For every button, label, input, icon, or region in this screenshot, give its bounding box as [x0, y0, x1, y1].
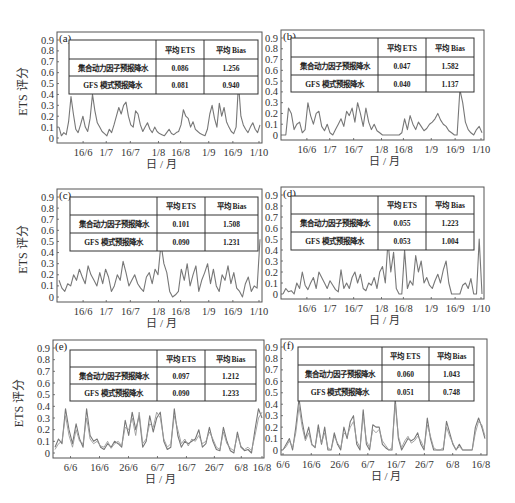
table-row-label: 集合动力因子预报降水 — [78, 371, 150, 381]
y-tick-label: 0.9 — [41, 192, 54, 203]
x-tick-label: 6/8 — [235, 462, 248, 473]
y-tick-label: 0.3 — [265, 97, 278, 108]
y-tick-label: 0.4 — [41, 89, 55, 100]
x-tick-label: 6/6 — [276, 459, 289, 470]
y-tick-label: 0.6 — [265, 65, 278, 76]
table-cell: 1.223 — [442, 219, 459, 228]
x-axis-label: 日 / 月 — [369, 314, 400, 326]
x-tick-label: 1/8 — [152, 306, 165, 317]
x-tick-label: 16/9 — [224, 147, 243, 158]
x-axis-label: 日 / 月 — [145, 473, 176, 485]
x-tick-label: 1/7 — [100, 147, 113, 158]
table-header: 平均 ETS — [166, 354, 196, 364]
y-tick-label: 0.2 — [41, 111, 54, 122]
x-tick-label: 6/7 — [361, 459, 374, 470]
table-cell: 1.582 — [442, 62, 459, 71]
x-tick-label: 1/10 — [250, 147, 269, 158]
table-row-label: GFS 模式预报降水 — [83, 80, 142, 90]
y-tick-label: 0.3 — [265, 410, 278, 421]
x-tick-label: 1/9 — [425, 144, 438, 155]
y-tick-label: 0.1 — [37, 436, 50, 447]
table-row-label: GFS 模式预报降水 — [305, 236, 364, 246]
y-tick-label: 0.8 — [37, 354, 50, 365]
x-tick-label: 6/8 — [446, 459, 459, 470]
table-cell: 0.081 — [172, 81, 189, 90]
y-tick-label: 0.1 — [41, 122, 54, 133]
stats-table: 平均 ETS平均 Bias集合动力因子预报降水0.0601.043GFS 模式预… — [298, 347, 474, 401]
table-header: 平均 Bias — [217, 201, 247, 211]
y-tick-label: 0.9 — [265, 33, 278, 44]
panel-label: (f) — [283, 339, 294, 352]
x-tick-label: 1/7 — [323, 303, 336, 314]
x-tick-label: 16/7 — [344, 144, 363, 155]
y-tick-label: 0.1 — [265, 278, 278, 289]
x-tick-label: 16/6 — [90, 462, 109, 473]
y-tick-label: 0.4 — [37, 401, 51, 412]
x-tick-label: 16/6 — [74, 306, 93, 317]
series-line — [283, 404, 485, 450]
table-header: 平均 ETS — [387, 200, 417, 210]
x-tick-label: 1/8 — [152, 147, 165, 158]
x-tick-label: 16/7 — [121, 147, 140, 158]
table-cell: 0.051 — [397, 388, 414, 397]
y-tick-label: 0.1 — [265, 119, 278, 130]
table-row-label: 集合动力因子预报降水 — [304, 369, 376, 379]
x-tick-label: 16/7 — [344, 303, 363, 314]
y-tick-label: 0.3 — [265, 256, 278, 267]
y-axis-label: ETS 评分 — [12, 379, 26, 427]
y-tick-label: 0.4 — [265, 86, 279, 97]
stats-table: 平均 ETS平均 Bias集合动力因子预报降水0.0551.223GFS 模式预… — [291, 196, 474, 250]
x-tick-label: 16/8 — [394, 303, 413, 314]
x-tick-label: 16/7 — [121, 306, 140, 317]
table-cell: 0.748 — [443, 388, 460, 397]
table-row-label: 集合动力因子预报降水 — [299, 61, 371, 71]
x-tick-label: 16/8 — [171, 147, 190, 158]
y-tick-label: 0 — [273, 289, 278, 300]
y-tick-label: 0.1 — [265, 433, 278, 444]
x-axis-label: 日 / 月 — [146, 317, 177, 329]
table-cell: 1.004 — [442, 237, 459, 246]
table-header: 平均 Bias — [435, 200, 465, 210]
table-cell: 1.231 — [223, 238, 240, 247]
x-tick-label: 16/6 — [298, 144, 317, 155]
y-tick-label: 0.7 — [41, 56, 54, 67]
y-tick-label: 0.8 — [265, 353, 278, 364]
x-tick-label: 16/6 — [74, 147, 93, 158]
x-tick-label: 16/8 — [171, 306, 190, 317]
panel-c: 00.10.20.30.40.50.60.70.80.916/61/716/71… — [16, 189, 268, 329]
panel-a: 00.10.20.30.40.50.60.70.80.916/61/716/71… — [16, 32, 268, 170]
table-cell: 0.060 — [397, 370, 414, 379]
table-cell: 0.053 — [394, 237, 411, 246]
x-tick-label: 16/9 — [446, 303, 465, 314]
x-tick-label: 6/7 — [151, 462, 164, 473]
stats-table: 平均 ETS平均 Bias集合动力因子预报降水0.0861.256GFS 模式预… — [69, 40, 258, 94]
x-tick-label: 26/7 — [205, 462, 224, 473]
table-header: 平均 Bias — [437, 351, 467, 361]
y-tick-label: 0.1 — [41, 280, 54, 291]
x-tick-label: 1/9 — [202, 306, 215, 317]
y-tick-label: 0.2 — [41, 269, 54, 280]
table-row-label: 集合动力因子预报降水 — [299, 218, 371, 228]
figure: 00.10.20.30.40.50.60.70.80.916/61/716/71… — [0, 0, 515, 503]
y-tick-label: 0.2 — [265, 267, 278, 278]
table-cell: 0.940 — [223, 81, 240, 90]
table-header: 平均 Bias — [216, 45, 246, 55]
y-axis-label: ETS 评分 — [16, 67, 30, 115]
y-tick-label: 0.9 — [265, 190, 278, 201]
y-tick-label: 0.5 — [265, 234, 278, 245]
x-axis-label: 日 / 月 — [371, 470, 402, 482]
x-tick-label: 16/8 — [472, 459, 491, 470]
y-tick-label: 0 — [273, 445, 278, 456]
table-row-label: 集合动力因子预报降水 — [78, 219, 150, 229]
y-tick-label: 0.9 — [37, 343, 50, 354]
table-header: 平均 ETS — [390, 351, 420, 361]
table-cell: 1.212 — [222, 372, 239, 381]
table-cell: 0.090 — [173, 389, 190, 398]
x-tick-label: 16/7 — [387, 459, 406, 470]
table-cell: 0.101 — [173, 220, 190, 229]
y-tick-label: 0.3 — [41, 258, 54, 269]
table-cell: 0.097 — [173, 372, 190, 381]
y-tick-label: 0.7 — [41, 214, 54, 225]
y-tick-label: 0.6 — [265, 223, 278, 234]
table-header: 平均 Bias — [216, 354, 246, 364]
